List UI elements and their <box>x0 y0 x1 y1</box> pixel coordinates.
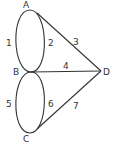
edge-label-5: 5 <box>6 99 12 109</box>
graph-svg: A B C D 1 2 3 4 5 6 7 <box>0 0 113 142</box>
edge-2 <box>30 10 44 72</box>
edge-label-1: 1 <box>6 38 12 48</box>
node-label-b: B <box>13 67 19 77</box>
edge-label-2: 2 <box>48 38 54 48</box>
node-label-a: A <box>23 0 30 10</box>
edge-label-3: 3 <box>73 37 79 47</box>
node-label-c: C <box>23 134 29 142</box>
node-label-d: D <box>103 67 110 77</box>
edge-5 <box>16 72 31 133</box>
edge-3 <box>37 13 101 71</box>
edge-label-7: 7 <box>73 101 79 111</box>
graph-diagram: A B C D 1 2 3 4 5 6 7 <box>0 0 113 142</box>
edge-4 <box>31 71 101 72</box>
edge-label-4: 4 <box>63 61 69 71</box>
edge-1 <box>16 10 31 72</box>
edge-label-6: 6 <box>48 99 54 109</box>
edge-7 <box>37 71 101 129</box>
